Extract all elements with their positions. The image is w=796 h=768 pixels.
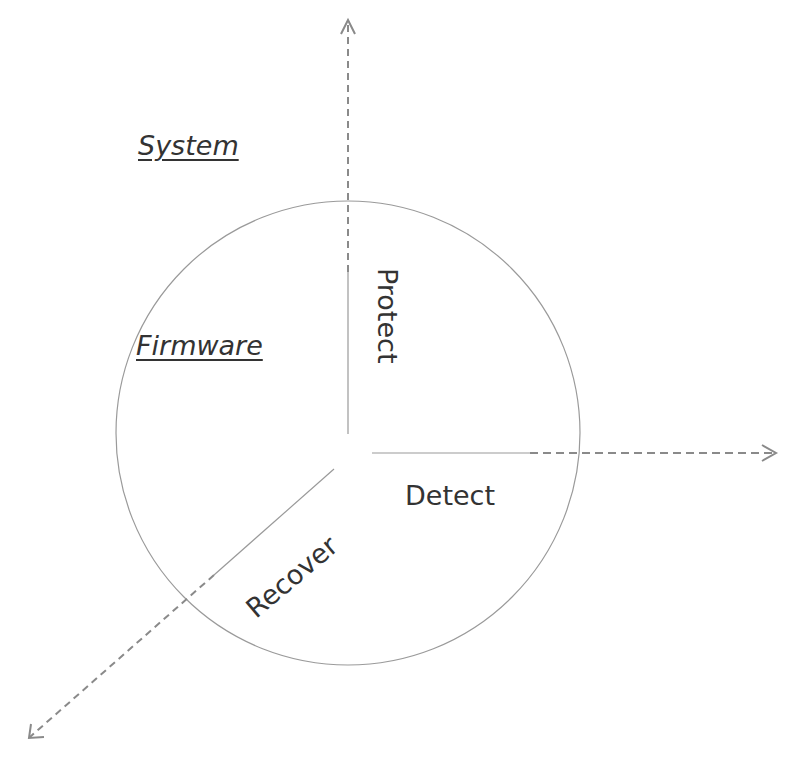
phase-label-protect: Protect (372, 268, 403, 363)
scope-label-firmware: Firmware (136, 330, 263, 361)
scope-label-system: System (138, 130, 239, 161)
axis-down-left-dashed (30, 575, 214, 737)
diagram-canvas (0, 0, 796, 768)
phase-label-detect: Detect (405, 480, 495, 511)
